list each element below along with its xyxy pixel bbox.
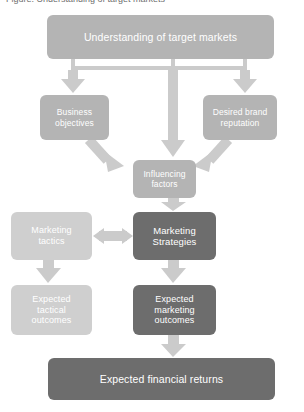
node-tactics-label-line2: tactics [31,236,71,247]
node-marketing-outcomes-label-line3: outcomes [154,315,194,326]
connector-trunk-horizontal [71,66,245,70]
node-business-objectives[interactable]: Business objectives [40,95,109,140]
connector-trunk-center [171,59,175,70]
node-marketing-tactics[interactable]: Marketing tactics [11,212,92,260]
arrow-head-business-to-influencing [104,151,124,172]
node-marketing-outcomes-label-line2: marketing [154,305,194,316]
double-arrow-head-left [93,228,104,244]
node-influencing-factors[interactable]: Influencing factors [133,160,196,198]
node-influencing-label-line2: factors [143,179,185,189]
node-business-label-line1: Business [55,107,94,117]
connector-trunk-right [243,59,247,70]
node-strategies-text: Marketing Strategies [153,225,197,247]
node-desired-label-line1: Desired brand [213,107,268,117]
node-tactical-outcomes-label-line3: outcomes [32,315,72,326]
node-tactics-label-line1: Marketing [31,225,71,236]
node-influencing-label-line1: Influencing [143,169,185,179]
node-strategies-label-line2: Strategies [153,236,197,247]
node-desired-text: Desired brand reputation [213,107,268,127]
double-arrow-head-right [122,228,133,244]
node-influencing-text: Influencing factors [143,169,185,189]
arrow-head-to-influencing [161,140,185,157]
node-understanding-label: Understanding of target markets [84,31,237,43]
node-understanding-of-target-markets[interactable]: Understanding of target markets [47,15,274,59]
node-desired-label-line2: reputation [213,118,268,128]
node-expected-financial-returns[interactable]: Expected financial returns [48,358,275,400]
node-expected-marketing-outcomes[interactable]: Expected marketing outcomes [133,285,216,335]
node-marketing-strategies[interactable]: Marketing Strategies [133,212,216,260]
node-strategies-label-line1: Marketing [153,225,197,236]
node-tactics-text: Marketing tactics [31,225,71,246]
arrow-head-tactics-to-outcomes [36,268,61,283]
figure-caption-clipped: Figure: Understanding of target markets [6,0,298,4]
flowchart-diagram: Figure: Understanding of target markets [0,0,304,412]
node-business-text: Business objectives [55,107,94,127]
node-marketing-outcomes-text: Expected marketing outcomes [154,294,194,326]
node-financial-label: Expected financial returns [100,373,223,385]
arrow-head-to-desired [233,79,257,93]
arrow-head-influencing-to-strategies [161,202,186,211]
arrow-shaft-to-influencing [168,70,178,142]
node-tactical-outcomes-label-line1: Expected [32,294,72,305]
node-business-label-line2: objectives [55,118,94,128]
arrow-head-to-business [61,79,85,93]
node-tactical-outcomes-label-line2: tactical [32,305,72,316]
arrow-head-outcomes-to-financial [161,344,186,357]
node-tactical-outcomes-text: Expected tactical outcomes [32,294,72,326]
connector-layer [0,0,304,412]
node-marketing-outcomes-label-line1: Expected [154,294,194,305]
node-desired-brand-reputation[interactable]: Desired brand reputation [203,95,277,140]
arrow-head-strategies-to-outcomes [161,268,186,283]
node-expected-tactical-outcomes[interactable]: Expected tactical outcomes [11,285,92,335]
arrow-head-desired-to-influencing [193,151,213,172]
